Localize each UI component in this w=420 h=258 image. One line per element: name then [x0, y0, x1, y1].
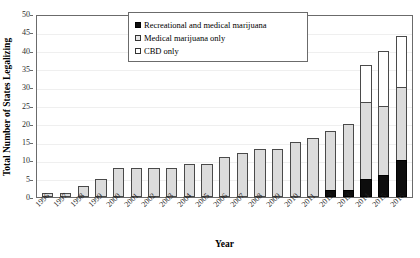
y-tick-mark [30, 161, 33, 162]
x-tick-slot: 2016 [393, 199, 411, 235]
bar-slot [39, 16, 57, 197]
bar-segment-medical-only [254, 149, 265, 197]
bar-slot [375, 16, 393, 197]
bar-stack[interactable] [290, 142, 301, 197]
bar-stack[interactable] [325, 131, 336, 197]
y-tick-mark [30, 70, 33, 71]
bar-stack[interactable] [307, 138, 318, 197]
bar-stack[interactable] [254, 149, 265, 197]
y-tick-label: 35 [2, 66, 30, 74]
bar-segment-medical-only [237, 153, 248, 197]
bar-segment-medical-only [378, 106, 389, 176]
bar-stack[interactable] [219, 157, 230, 197]
y-tick-mark [30, 88, 33, 89]
bar-segment-cbd-only [378, 51, 389, 106]
bar-stack[interactable] [396, 36, 407, 197]
bar-segment-medical-only [360, 102, 371, 179]
bar-segment-medical-only [290, 142, 301, 197]
bar-stack[interactable] [378, 51, 389, 197]
y-tick-label: 30 [2, 84, 30, 92]
bar-segment-medical-only [396, 87, 407, 160]
legend-item-recreational: Recreational and medical marijuana [135, 18, 301, 31]
bar-segment-medical-only [307, 138, 318, 197]
chart-figure: Total Number of States Legalizing 051015… [0, 0, 420, 258]
y-tick-label: 25 [2, 103, 30, 111]
legend-label-cbd: CBD only [144, 46, 179, 56]
bar-stack[interactable] [272, 149, 283, 197]
legend-swatch-cbd-icon [135, 48, 141, 54]
legend-label-medical: Medical marijuana only [144, 33, 225, 43]
y-tick-mark [30, 180, 33, 181]
legend-label-recreational: Recreational and medical marijuana [144, 20, 266, 30]
y-tick-mark [30, 107, 33, 108]
bar-slot [92, 16, 110, 197]
x-axis-title: Year [36, 239, 413, 249]
bar-segment-medical-only [272, 149, 283, 197]
bar-segment-medical-only [343, 124, 354, 190]
bar-slot [110, 16, 128, 197]
figure-top-caption [0, 0, 420, 3]
legend-swatch-recreational-icon [135, 22, 141, 28]
bar-stack[interactable] [237, 153, 248, 197]
bar-slot [57, 16, 75, 197]
bar-slot [392, 16, 410, 197]
bar-stack[interactable] [360, 65, 371, 197]
y-tick-mark [30, 143, 33, 144]
bar-slot [322, 16, 340, 197]
legend-item-cbd: CBD only [135, 44, 301, 57]
y-tick-mark [30, 15, 33, 16]
y-tick-mark [30, 52, 33, 53]
y-tick-label: 40 [2, 48, 30, 56]
y-tick-label: 10 [2, 157, 30, 165]
y-tick-label: 0 [2, 194, 30, 202]
legend-swatch-medical-icon [135, 35, 141, 41]
y-tick-mark [30, 33, 33, 34]
chart-legend: Recreational and medical marijuana Medic… [128, 12, 308, 62]
y-tick-label: 5 [2, 176, 30, 184]
bar-segment-medical-only [325, 131, 336, 190]
y-tick-label: 50 [2, 11, 30, 19]
bar-slot [339, 16, 357, 197]
bar-stack[interactable] [343, 124, 354, 197]
bar-segment-cbd-only [360, 65, 371, 102]
bar-slot [357, 16, 375, 197]
legend-item-medical: Medical marijuana only [135, 31, 301, 44]
y-tick-label: 15 [2, 139, 30, 147]
bar-segment-recreational-medical [396, 160, 407, 197]
bar-segment-medical-only [219, 157, 230, 197]
bar-slot [74, 16, 92, 197]
y-tick-mark [30, 198, 33, 199]
y-tick-label: 20 [2, 121, 30, 129]
y-axis-ticks: 05101520253035404550 [0, 15, 33, 198]
x-axis-ticks: 1996199719981999200020012002200320042005… [36, 199, 413, 235]
y-tick-label: 45 [2, 29, 30, 37]
bar-segment-cbd-only [396, 36, 407, 87]
y-tick-mark [30, 125, 33, 126]
